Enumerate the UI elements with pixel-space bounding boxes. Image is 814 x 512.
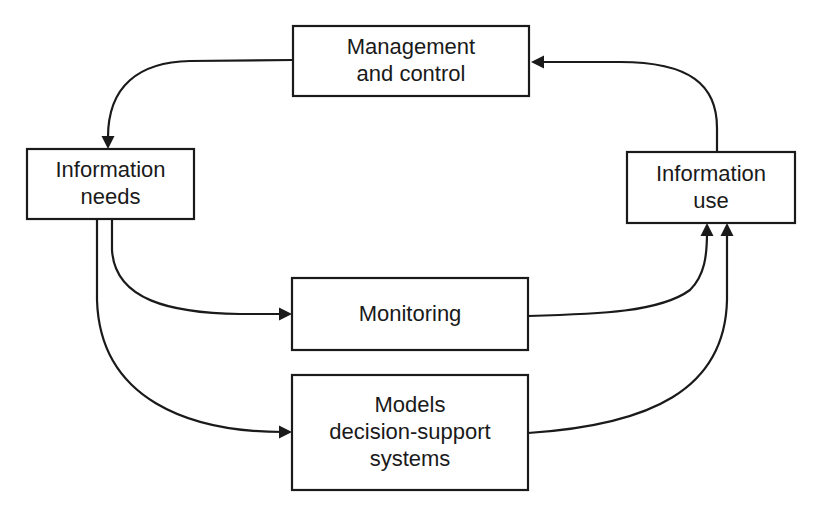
- box-label-line: Information: [656, 161, 766, 186]
- information-needs-box: Informationneeds: [27, 149, 194, 219]
- connector-line: [528, 232, 707, 316]
- arrowhead-up-icon: [721, 223, 734, 236]
- models-decision-support-box: Modelsdecision-supportsystems: [292, 375, 528, 490]
- box-label-line: Information: [55, 157, 165, 182]
- monitoring-box: Monitoring: [292, 278, 528, 350]
- box-label-line: use: [693, 188, 728, 213]
- connector-line: [108, 60, 293, 140]
- edge-use-to-management: [531, 56, 717, 153]
- box-label-line: Management: [347, 34, 475, 59]
- arrowhead-right-icon: [279, 426, 292, 439]
- flow-diagram: Managementand controlInformationneedsInf…: [0, 0, 814, 512]
- arrowhead-left-icon: [531, 56, 544, 69]
- edge-monitoring-to-use: [528, 223, 714, 316]
- edge-needs-to-monitoring: [112, 219, 292, 321]
- connector-line: [540, 62, 717, 152]
- arrowhead-up-icon: [701, 223, 714, 236]
- nodes-layer: Managementand controlInformationneedsInf…: [27, 26, 795, 490]
- connector-line: [97, 219, 283, 432]
- arrowhead-right-icon: [279, 308, 292, 321]
- box-label-line: systems: [370, 446, 451, 471]
- management-and-control-box: Managementand control: [293, 26, 529, 96]
- connector-line: [112, 219, 283, 314]
- edge-management-to-needs: [102, 60, 294, 149]
- edge-models-to-use: [528, 223, 734, 433]
- edge-needs-to-models: [97, 219, 292, 439]
- box-label-line: Monitoring: [359, 301, 462, 326]
- box-label-line: decision-support: [329, 419, 490, 444]
- box-label-line: and control: [357, 61, 466, 86]
- box-label-line: Models: [375, 392, 446, 417]
- connector-line: [528, 232, 727, 433]
- box-label-line: needs: [81, 184, 141, 209]
- arrowhead-down-icon: [102, 136, 115, 149]
- information-use-box: Informationuse: [627, 152, 795, 223]
